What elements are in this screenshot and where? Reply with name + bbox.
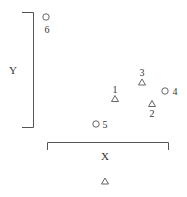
y-bracket (22, 13, 34, 128)
point-label-2: 2 (150, 108, 155, 119)
triangle-marker-icon (139, 79, 146, 85)
point-label-5: 5 (103, 119, 108, 130)
triangle-marker-icon (149, 101, 156, 107)
point-6: 6 (43, 14, 50, 35)
x-axis-label: X (101, 150, 109, 162)
circle-marker-icon (93, 121, 99, 127)
point-label-3: 3 (140, 67, 145, 78)
point-label-1: 1 (113, 84, 118, 95)
point-label-4: 4 (173, 86, 178, 97)
point-4: 4 (162, 86, 178, 97)
triangle-marker-icon (112, 96, 119, 102)
point-3: 3 (139, 67, 146, 85)
point-1: 1 (112, 84, 119, 102)
triangle-marker-icon (102, 178, 109, 184)
circle-marker-icon (162, 88, 168, 94)
diagram-canvas: Y X 6 1 3 4 2 5 (0, 0, 187, 197)
x-bracket (48, 143, 169, 151)
point-2: 2 (149, 101, 156, 120)
circle-marker-icon (43, 14, 49, 20)
y-axis-label: Y (9, 64, 17, 76)
point-label-6: 6 (45, 24, 50, 35)
point-5: 5 (93, 119, 108, 130)
